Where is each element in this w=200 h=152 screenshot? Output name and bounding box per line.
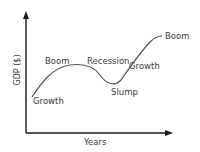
y-axis-label: GDP ($) — [14, 54, 22, 85]
label-slump: Slump — [111, 88, 138, 97]
business-cycle-diagram — [0, 0, 200, 152]
x-axis-arrow-icon — [165, 130, 173, 136]
label-recession: Recession — [87, 57, 129, 66]
label-growth-1: Growth — [33, 97, 64, 106]
x-axis-label: Years — [84, 138, 106, 147]
label-boom-1: Boom — [45, 57, 70, 66]
label-boom-2: Boom — [165, 32, 190, 41]
label-growth-2: Growth — [129, 62, 160, 71]
y-axis-arrow-icon — [23, 11, 29, 19]
